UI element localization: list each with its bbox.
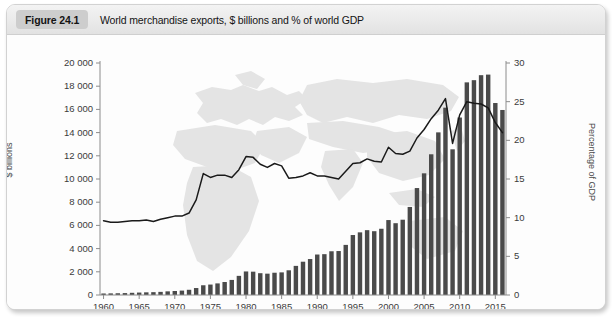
bar [415,188,419,295]
x-axis-tick-label: 2005 [406,301,442,310]
y-axis-right-tick-label: 20 [514,134,525,145]
y-axis-left-title: $ billions [6,142,14,177]
y-axis-left-tick-label: 0 [27,289,93,300]
bar [436,132,440,295]
world-map-watermark [173,71,465,271]
bar [208,285,212,295]
bar [393,223,397,295]
bar [180,291,184,295]
x-axis-tick-label: 2010 [442,301,478,310]
y-axis-right-tick-label: 15 [514,173,525,184]
bar [351,235,355,295]
bar [493,103,497,295]
x-axis-tick-label: 1965 [121,301,157,310]
y-axis-left-tick-label: 18 000 [27,80,93,91]
y-axis-right-tick-label: 5 [514,250,519,261]
bar [322,254,326,295]
bar [237,276,241,295]
bar [215,283,219,295]
bar [450,149,454,295]
bar [358,232,362,295]
bar [187,290,191,295]
x-axis-tick-label: 2000 [370,301,406,310]
bar [429,154,433,295]
x-axis-tick-label: 1980 [228,301,264,310]
bar [194,288,198,295]
bar [472,80,476,295]
bar [329,251,333,295]
bar [173,291,177,295]
bar [365,230,369,295]
y-axis-right-tick-label: 30 [514,57,525,68]
bar [301,262,305,295]
y-axis-right-title: Percentage of GDP [587,123,597,201]
bar [401,220,405,295]
figure-title: World merchandise exports, $ billions an… [100,5,364,35]
y-axis-left-tick-label: 6 000 [27,219,93,230]
bar [287,270,291,295]
x-axis-tick-label: 1960 [86,301,122,310]
x-axis-tick-label: 1975 [192,301,228,310]
bar [230,280,234,295]
bar [336,251,340,295]
y-axis-right-tick-label: 25 [514,96,525,107]
bar [457,118,461,295]
y-axis-left-tick-label: 12 000 [27,150,93,161]
y-axis-left-tick-label: 4 000 [27,243,93,254]
bar [272,273,276,295]
bar [222,282,226,295]
bar [408,207,412,295]
y-axis-left-tick-label: 8 000 [27,196,93,207]
bar [294,266,298,295]
bar [344,245,348,295]
bar [244,271,248,295]
figure-number-badge: Figure 24.1 [16,10,88,29]
bar [500,110,504,295]
y-axis-right-tick-label: 10 [514,212,525,223]
y-axis-right-tick-label: 0 [514,289,519,300]
bar [265,274,269,295]
bar [443,108,447,295]
bar [372,231,376,295]
x-axis-tick-label: 1970 [157,301,193,310]
x-axis-tick-label: 1990 [299,301,335,310]
bar [386,220,390,295]
y-axis-left-tick-label: 20 000 [27,57,93,68]
bar [165,291,169,295]
figure-card: Figure 24.1 World merchandise exports, $… [6,4,606,310]
bar [465,82,469,295]
bar [258,273,262,295]
x-axis-tick-label: 2015 [477,301,513,310]
x-axis-tick-label: 1985 [264,301,300,310]
bar [201,285,205,295]
bar [479,75,483,295]
y-axis-left-tick-label: 14 000 [27,127,93,138]
y-axis-left-tick-label: 16 000 [27,103,93,114]
bar [279,272,283,295]
bar [315,255,319,295]
bar [379,229,383,295]
chart-plot-area: $ billions Percentage of GDP 02 0004 000… [7,35,605,310]
y-axis-left-tick-label: 2 000 [27,266,93,277]
figure-header: Figure 24.1 World merchandise exports, $… [7,5,605,35]
bar [251,272,255,295]
y-axis-left-tick-label: 10 000 [27,173,93,184]
bar [308,259,312,295]
bar [422,173,426,295]
x-axis-tick-label: 1995 [335,301,371,310]
